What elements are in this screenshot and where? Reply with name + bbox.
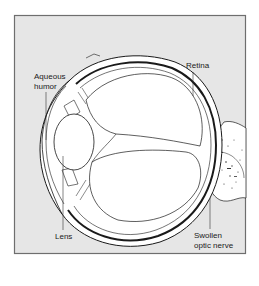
label-aqueous-humor-line2: humor — [34, 82, 66, 92]
label-optic-nerve-line2: optic nerve — [194, 241, 233, 251]
lens — [54, 114, 94, 170]
label-aqueous-humor: Aqueous humor — [34, 72, 66, 92]
label-lens: Lens — [55, 232, 72, 242]
eye-globe — [40, 54, 222, 246]
label-swollen-optic-nerve: Swollen optic nerve — [194, 231, 233, 251]
label-aqueous-humor-line1: Aqueous — [34, 72, 66, 82]
label-retina: Retina — [186, 61, 209, 71]
label-optic-nerve-line1: Swollen — [194, 231, 233, 241]
